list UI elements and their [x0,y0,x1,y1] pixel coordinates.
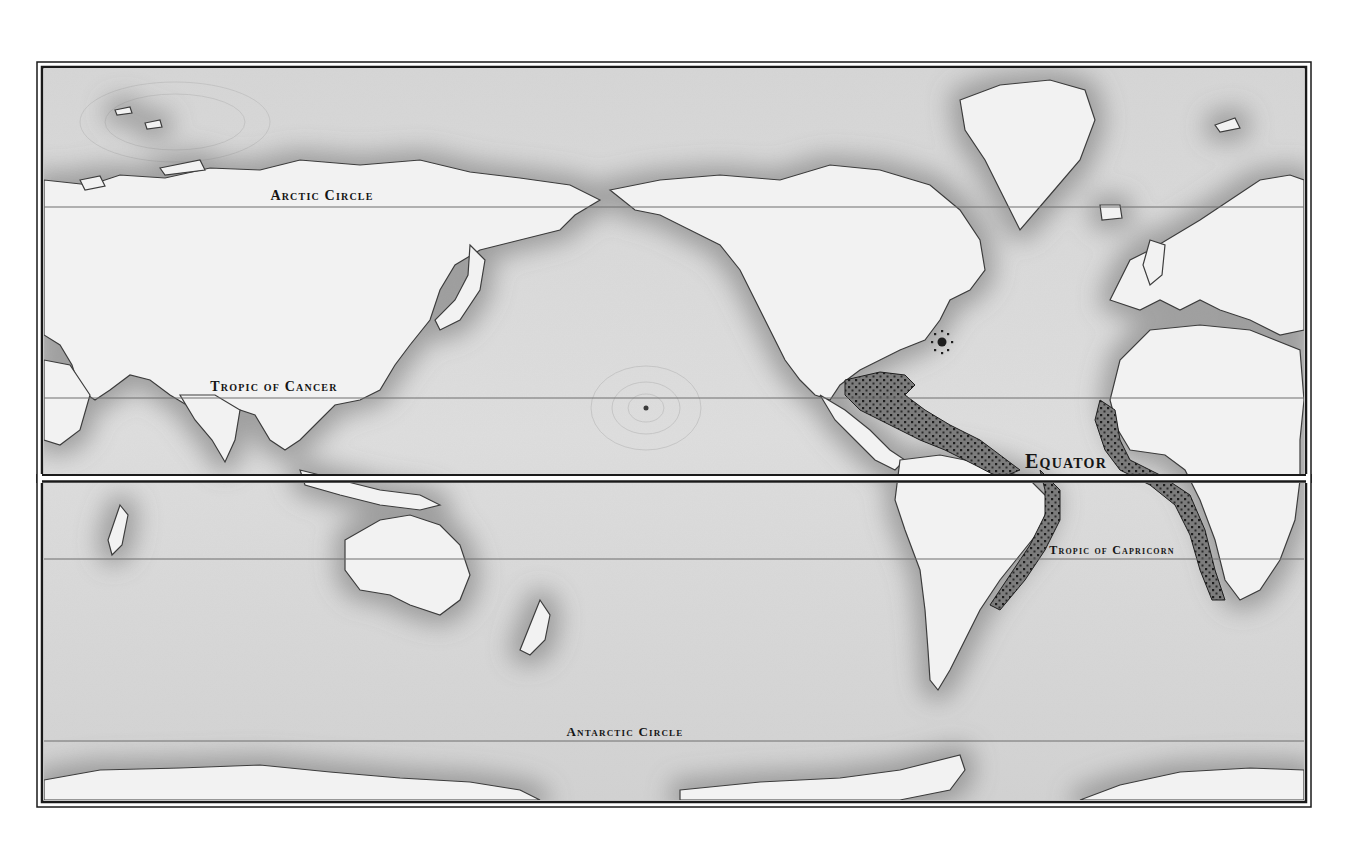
label-arctic-circle: Arctic Circle [270,188,373,203]
label-antarctic-circle: Antarctic Circle [566,724,683,739]
pacific-point-marker [644,406,649,411]
label-tropic-of-capricorn: Tropic of Capricorn [1049,543,1174,557]
map-canvas: Arctic Circle Tropic of Cancer Equator T… [0,0,1365,844]
label-equator: Equator [1025,450,1107,472]
label-tropic-of-cancer: Tropic of Cancer [210,379,337,394]
world-map: Arctic Circle Tropic of Cancer Equator T… [0,0,1365,844]
